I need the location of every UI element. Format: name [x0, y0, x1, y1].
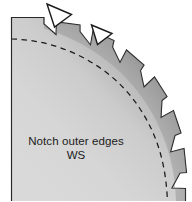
saw-blade-figure: Notch outer edges WS [0, 0, 192, 201]
blade-illustration [0, 0, 192, 201]
blade-body-group [12, 18, 187, 202]
